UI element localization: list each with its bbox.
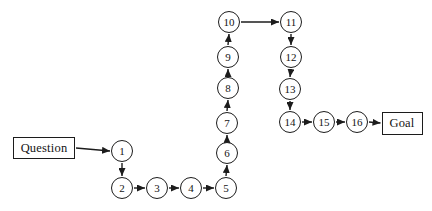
node-15: 15 [313,111,335,133]
node-16: 16 [346,111,368,133]
node-8: 8 [217,77,239,99]
node-3: 3 [146,177,168,199]
edge-5-to-6 [226,165,227,176]
goal-box: Goal [382,112,423,135]
edge-7-to-8 [227,100,228,111]
flow-diagram: Question12345678910111213141516Goal [0,0,432,211]
edge-16-to-goal [369,122,381,123]
node-9: 9 [217,46,239,68]
node-4: 4 [180,177,202,199]
node-2: 2 [111,177,133,199]
node-11: 11 [280,11,302,33]
node-14: 14 [279,111,301,133]
node-5: 5 [215,177,237,199]
node-12: 12 [280,46,302,68]
node-1: 1 [111,140,133,162]
question-box: Question [13,137,75,159]
edge-9-to-10 [228,34,229,45]
edge-question-to-1 [76,148,110,151]
node-13: 13 [279,78,301,100]
edge-12-to-13 [290,69,291,77]
node-6: 6 [216,142,238,164]
node-7: 7 [216,112,238,134]
node-10: 10 [218,11,240,33]
edge-layer [0,0,432,211]
